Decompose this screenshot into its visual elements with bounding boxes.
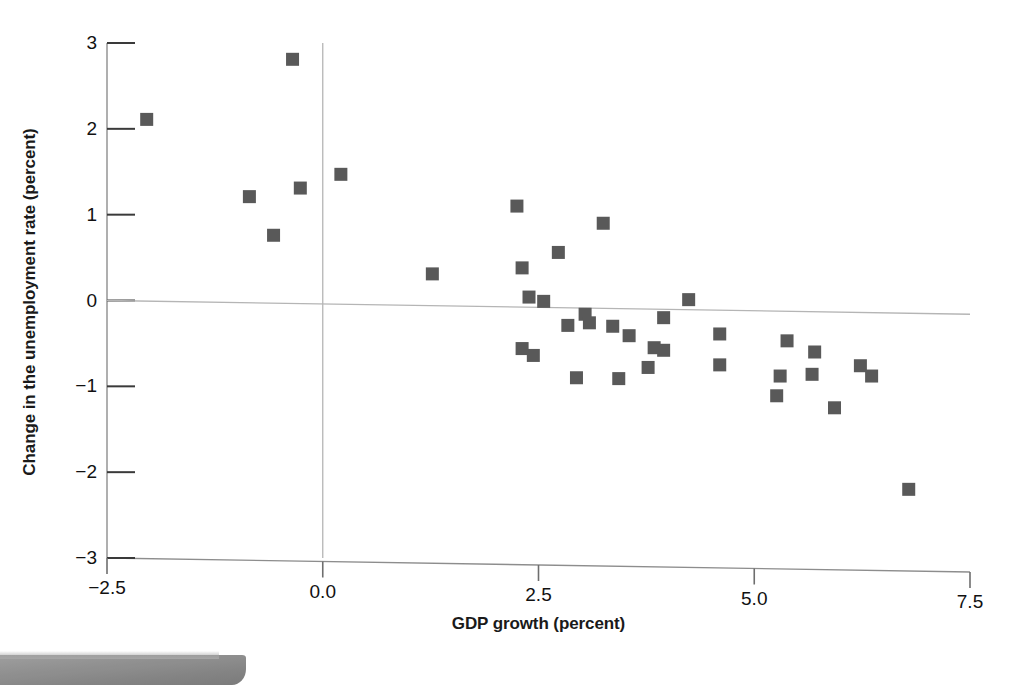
- data-point-marker: [334, 168, 347, 181]
- y-axis-tick-label: 1: [51, 205, 97, 224]
- data-point-marker: [426, 267, 439, 280]
- data-point-marker: [552, 246, 565, 259]
- data-point-marker: [527, 349, 540, 362]
- scan-edge-artifact: [0, 655, 246, 685]
- data-point-marker: [713, 327, 726, 340]
- data-point-marker: [243, 190, 256, 203]
- data-point-marker: [774, 370, 787, 383]
- data-point-marker: [808, 346, 821, 359]
- x-axis-tick-label: 7.5: [930, 592, 1010, 611]
- data-point-marker: [537, 295, 550, 308]
- y-axis-tick-label: −2: [51, 462, 97, 481]
- data-point-marker: [806, 368, 819, 381]
- x-axis-title: GDP growth (percent): [107, 614, 970, 634]
- data-point-marker: [516, 342, 529, 355]
- data-point-marker: [854, 359, 867, 372]
- data-point-marker: [657, 311, 670, 324]
- data-point-marker: [713, 358, 726, 371]
- data-point-marker: [828, 401, 841, 414]
- y-axis-tick-label: 2: [51, 119, 97, 138]
- data-point-marker: [516, 261, 529, 274]
- x-axis-tick-label: 0.0: [283, 582, 363, 601]
- data-point-marker: [294, 182, 307, 195]
- y-axis-tick-label: 0: [51, 291, 97, 310]
- data-point-marker: [657, 344, 670, 357]
- x-axis-tick-label: −2.5: [67, 578, 147, 597]
- data-point-marker: [140, 113, 153, 126]
- data-point-marker: [597, 217, 610, 230]
- data-point-marker: [770, 389, 783, 402]
- data-point-marker: [523, 291, 536, 304]
- data-point-marker: [286, 53, 299, 66]
- y-axis-tick-label: 3: [51, 33, 97, 52]
- data-point-marker: [267, 229, 280, 242]
- data-point-marker: [561, 319, 574, 332]
- data-point-marker: [606, 320, 619, 333]
- axes-layer: [107, 43, 970, 588]
- data-point-marker: [781, 334, 794, 347]
- data-points-layer: [140, 53, 915, 496]
- data-point-marker: [583, 316, 596, 329]
- data-point-marker: [570, 371, 583, 384]
- data-point-marker: [865, 370, 878, 383]
- y-axis-title: Change in the unemployment rate (percent…: [8, 0, 52, 612]
- data-point-marker: [612, 372, 625, 385]
- data-point-marker: [682, 293, 695, 306]
- x-axis-tick-label: 2.5: [499, 585, 579, 604]
- y-axis-tick-label: −1: [51, 376, 97, 395]
- data-point-marker: [510, 200, 523, 213]
- data-point-marker: [642, 361, 655, 374]
- x-axis-tick-label: 5.0: [714, 589, 794, 608]
- data-point-marker: [902, 483, 915, 496]
- data-point-marker: [623, 329, 636, 342]
- y-axis-tick-label: −3: [51, 548, 97, 567]
